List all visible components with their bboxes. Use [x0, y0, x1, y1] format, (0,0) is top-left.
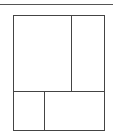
bottom-left-panel [14, 92, 45, 130]
top-left-panel [14, 16, 72, 91]
bottom-right-panel [45, 92, 104, 130]
top-right-panel [72, 16, 104, 91]
top-row-vertical-divider [71, 16, 72, 91]
bottom-row-vertical-divider [44, 91, 45, 130]
layout-outer-box [13, 15, 105, 131]
top-horizontal-rule [0, 4, 113, 5]
